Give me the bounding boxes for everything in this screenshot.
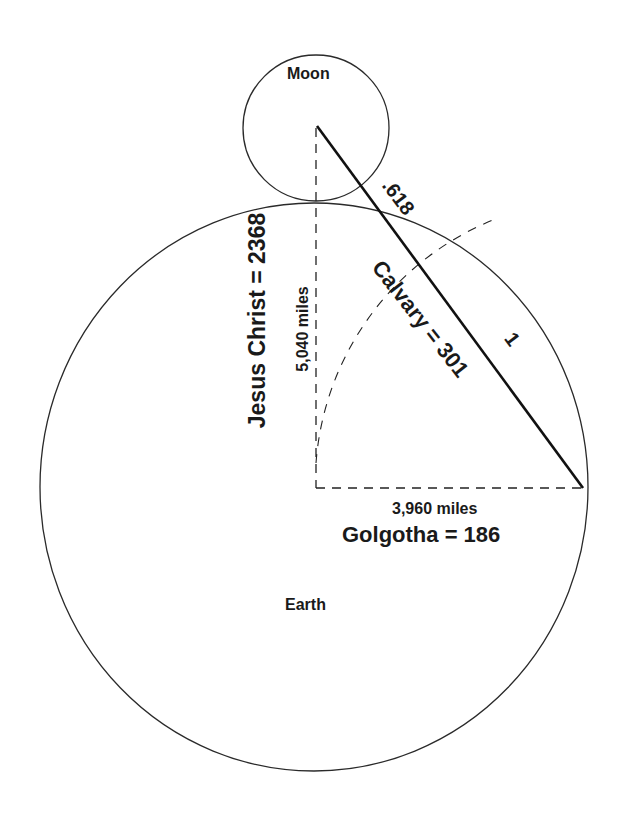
earth-label: Earth	[285, 597, 326, 613]
hypotenuse-line	[317, 126, 583, 488]
golgotha-label: Golgotha = 186	[342, 524, 500, 546]
jesus-christ-label: Jesus Christ = 2368	[246, 186, 269, 456]
vertical-distance-label: 5,040 miles	[295, 266, 311, 392]
moon-label: Moon	[287, 66, 330, 82]
earth-circle	[40, 203, 588, 771]
diagram-canvas	[0, 0, 625, 826]
horizontal-distance-label: 3,960 miles	[392, 501, 477, 517]
